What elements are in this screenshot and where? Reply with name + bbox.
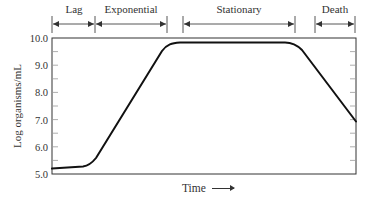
bracket-stationary bbox=[183, 16, 295, 33]
growth-curve-line bbox=[52, 43, 356, 169]
x-axis-label-text: Time bbox=[182, 182, 206, 194]
phase-label-lag: Lag bbox=[65, 4, 82, 15]
y-ticks bbox=[52, 52, 356, 161]
x-axis-label: Time bbox=[182, 182, 234, 194]
bracket-death bbox=[315, 16, 355, 33]
phase-label-stationary: Stationary bbox=[216, 4, 261, 15]
y-axis-label: Log organisms/mL bbox=[11, 64, 23, 148]
phase-brackets bbox=[52, 16, 355, 33]
phase-label-exponential: Exponential bbox=[104, 4, 157, 15]
ytick-label-10: 10.0 bbox=[18, 33, 48, 44]
right-arrow-icon bbox=[212, 188, 234, 189]
bracket-lag bbox=[52, 16, 94, 33]
phase-label-death: Death bbox=[322, 4, 348, 15]
ytick-label-5: 5.0 bbox=[18, 169, 48, 180]
growth-curve-chart bbox=[0, 0, 366, 199]
bracket-exponential bbox=[95, 16, 167, 33]
